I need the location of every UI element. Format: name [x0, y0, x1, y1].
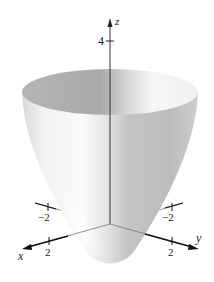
- x-tick-label-neg2: −2: [162, 211, 174, 223]
- paraboloid-figure: 4 z −2 2 −2 2 x y: [0, 0, 214, 282]
- z-tick-label-4: 4: [98, 34, 104, 48]
- y-axis-label: y: [195, 231, 202, 245]
- x-tick-label-2: 2: [45, 246, 51, 258]
- z-arrow-icon: [108, 18, 113, 27]
- y-tick-label-2: 2: [168, 246, 174, 258]
- x-arrow-icon: [22, 244, 32, 250]
- x-axis-label: x: [17, 249, 24, 263]
- z-axis-label: z: [114, 15, 120, 27]
- y-tick-label-neg2: −2: [38, 211, 50, 223]
